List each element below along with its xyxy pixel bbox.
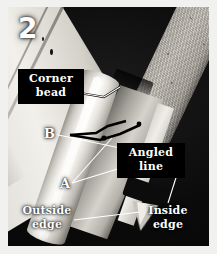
- figure-number: 2: [18, 15, 36, 43]
- leader-outside-edge: [74, 212, 140, 220]
- leader-b-endnode: [137, 122, 142, 127]
- label-b: B: [44, 127, 55, 140]
- photograph: 2 Corner bead B Angled line A Outside ed…: [8, 7, 209, 246]
- label-outside-edge: Outside edge: [16, 204, 78, 233]
- label-inside-edge: Inside edge: [140, 204, 196, 233]
- figure-container: 2 Corner bead B Angled line A Outside ed…: [0, 0, 217, 254]
- leader-b-node: [101, 135, 106, 140]
- leader-b-upper: [70, 121, 126, 135]
- callout-angled-line: Angled line: [117, 143, 185, 178]
- callout-corner-bead: Corner bead: [18, 69, 84, 104]
- annotation-overlay: 2 Corner bead B Angled line A Outside ed…: [8, 7, 209, 246]
- label-a: A: [60, 177, 70, 190]
